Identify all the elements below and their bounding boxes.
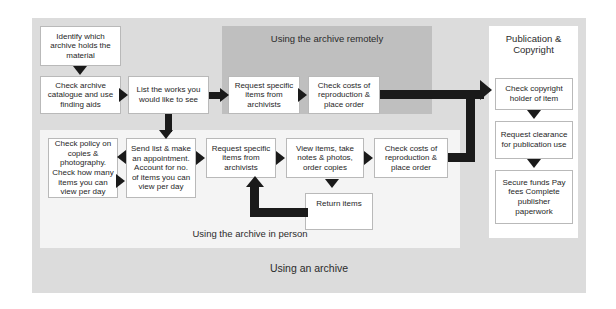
node-check-costs-remote: Check costs of reproduction & place orde… [308,76,380,114]
arrow-check-policy-to-send-list [116,174,125,188]
arrow-copyright-to-clearance [527,110,541,119]
node-view-items: View items, take notes & photos, order c… [286,138,364,178]
node-identify-archive: Identify which archive holds the materia… [40,26,121,66]
arrow-clearance-to-secure-funds [527,159,541,168]
arrow-request-remote-to-costs-remote [298,88,307,102]
panel-label-remote: Using the archive remotely [222,33,432,45]
panel-label-publication-copyright: Publication & Copyright [489,33,578,55]
panel-label-using-an-archive: Using an archive [32,262,586,274]
arrow-request-person-to-view-items [276,151,285,165]
arrow-send-list-to-check-policy [117,150,126,164]
diagram-canvas: Using the archive remotely Using the arc… [0,0,616,309]
node-request-items-remote: Request specific items from archivists [228,76,300,114]
node-check-archive-catalogue: Check archive catalogue and use finding … [40,76,121,114]
node-check-policy: Check policy on copies & photography. Ch… [48,138,118,198]
node-request-items-in-person: Request specific items from archivists [206,138,276,178]
node-secure-funds: Secure funds Pay fees Complete publisher… [495,170,573,224]
node-list-works: List the works you would like to see [128,76,209,114]
arrow-identify-to-check-archive [73,66,87,75]
node-check-copyright-holder: Check copyright holder of item [495,78,573,110]
arrow-check-archive-to-list-works [119,88,128,102]
node-send-list-appointment: Send list & make an appointment. Account… [126,138,196,198]
arrow-send-list-to-request-person [196,151,205,165]
arrow-view-items-to-costs-person [364,151,373,165]
node-return-items: Return items [305,193,373,230]
panel-label-in-person: Using the archive in person [40,228,460,240]
node-check-costs-in-person: Check costs of reproduction & place orde… [374,138,448,178]
arrow-view-items-to-return-items [325,179,339,188]
node-request-clearance: Request clearance for publication use [495,121,573,159]
